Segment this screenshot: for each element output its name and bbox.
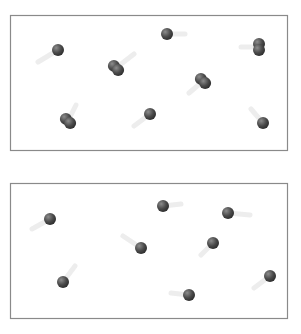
- atom-sphere: [199, 77, 211, 89]
- atom-sphere: [112, 64, 124, 76]
- atom-sphere: [253, 44, 265, 56]
- atom-sphere: [161, 28, 173, 40]
- bottom-container: [11, 184, 288, 319]
- atom-sphere: [57, 276, 69, 288]
- atom-sphere: [144, 108, 156, 120]
- atom-sphere: [135, 242, 147, 254]
- atom-sphere: [207, 237, 219, 249]
- atom-sphere: [157, 200, 169, 212]
- atom-sphere: [183, 289, 195, 301]
- diagram-canvas: [0, 0, 301, 334]
- container-border: [11, 184, 288, 319]
- atom-sphere: [222, 207, 234, 219]
- container-border: [11, 16, 288, 151]
- atom-sphere: [44, 213, 56, 225]
- atom-sphere: [257, 117, 269, 129]
- atom-sphere: [52, 44, 64, 56]
- atom-sphere: [64, 117, 76, 129]
- top-container: [11, 16, 288, 151]
- atom-sphere: [264, 270, 276, 282]
